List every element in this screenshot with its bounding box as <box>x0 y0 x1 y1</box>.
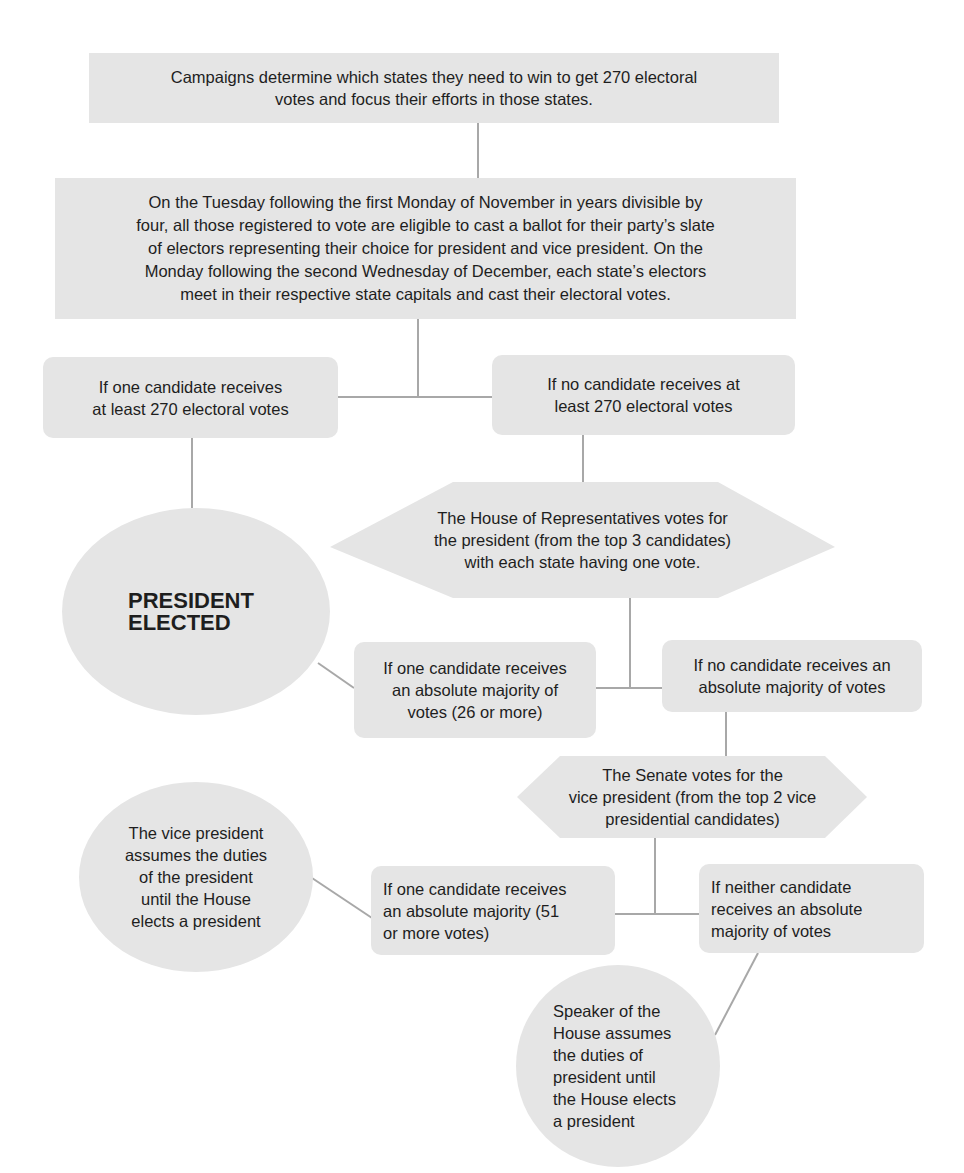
election-day-text: On the Tuesday following the first Monda… <box>136 191 714 306</box>
vp-acts-text: The vice president assumes the duties of… <box>125 822 267 932</box>
house-vote-label: The House of Representatives votes for t… <box>430 482 735 598</box>
no-270-box: If no candidate receives at least 270 el… <box>492 355 795 435</box>
senate-no-majority-text: If neither candidate receives an absolut… <box>711 876 862 942</box>
speaker-acts-ellipse: Speaker of the House assumes the duties … <box>516 965 720 1167</box>
senate-vote-label: The Senate votes for the vice president … <box>545 756 840 838</box>
house-vote-text: The House of Representatives votes for t… <box>434 507 731 573</box>
campaigns-text: Campaigns determine which states they ne… <box>171 66 697 110</box>
house-no-majority-text: If no candidate receives an absolute maj… <box>693 654 890 698</box>
win-270-box: If one candidate receives at least 270 e… <box>43 357 338 438</box>
senate-vote-text: The Senate votes for the vice president … <box>569 764 817 830</box>
senate-majority-box: If one candidate receives an absolute ma… <box>371 866 615 955</box>
senate-no-majority-box: If neither candidate receives an absolut… <box>699 864 924 953</box>
house-majority-text: If one candidate receives an absolute ma… <box>383 657 566 723</box>
senate-majority-text: If one candidate receives an absolute ma… <box>383 878 566 944</box>
edge-housemajority-president <box>318 663 354 688</box>
edge-senatenomajority-speaker <box>715 953 758 1035</box>
no-270-text: If no candidate receives at least 270 el… <box>547 373 740 417</box>
president-elected-ellipse: PRESIDENT ELECTED <box>62 508 330 715</box>
campaigns-box: Campaigns determine which states they ne… <box>89 53 779 123</box>
vp-acts-ellipse: The vice president assumes the duties of… <box>79 782 313 972</box>
edge-senatemajority-vp <box>312 878 372 918</box>
election-day-box: On the Tuesday following the first Monda… <box>55 178 796 319</box>
house-majority-box: If one candidate receives an absolute ma… <box>354 642 596 738</box>
president-elected-text: PRESIDENT ELECTED <box>128 590 254 634</box>
speaker-acts-text: Speaker of the House assumes the duties … <box>553 1000 676 1132</box>
win-270-text: If one candidate receives at least 270 e… <box>92 376 288 420</box>
house-no-majority-box: If no candidate receives an absolute maj… <box>662 640 922 712</box>
